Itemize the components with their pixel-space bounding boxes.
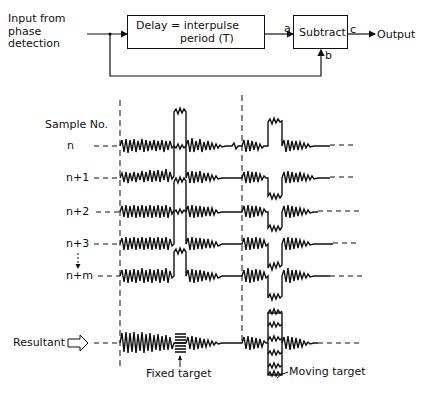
- sample-no-title: Sample No.: [45, 119, 108, 131]
- row-label-n: n: [67, 140, 74, 152]
- row-label-n3: n+3: [66, 238, 89, 250]
- row-label-n2: n+2: [66, 206, 89, 218]
- row-label-nm: n+m: [66, 270, 93, 282]
- diagram-lines: [0, 0, 427, 393]
- row-label-n1: n+1: [66, 172, 89, 184]
- fixed-target-label: Fixed target: [146, 368, 211, 380]
- resultant-label: Resultant: [13, 337, 65, 349]
- moving-target-label: Moving target: [289, 366, 366, 378]
